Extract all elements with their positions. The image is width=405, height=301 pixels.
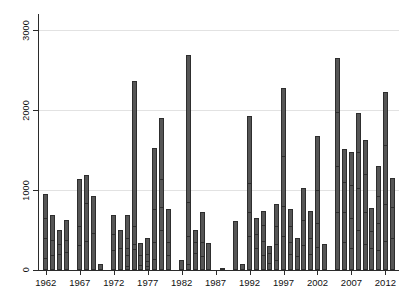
y-axis-tick-label-text: 2000 xyxy=(21,100,31,121)
x-axis-tick xyxy=(114,271,115,275)
bar xyxy=(342,149,347,270)
bar-segment-divider xyxy=(44,238,47,239)
y-axis-tick-label: 2000 xyxy=(0,88,31,132)
bar xyxy=(322,244,327,270)
bar-segment-divider xyxy=(302,245,305,246)
bar xyxy=(77,179,82,270)
bar-segment-divider xyxy=(153,242,156,243)
bar xyxy=(349,152,354,270)
y-axis-tick-label-text: 3000 xyxy=(21,20,31,41)
bar-segment-divider xyxy=(58,244,61,245)
y-axis-tick-label-text: 1000 xyxy=(21,180,31,201)
bar-segment-divider xyxy=(78,245,81,246)
bar xyxy=(43,194,48,270)
x-axis-tick xyxy=(385,271,386,275)
bar xyxy=(295,238,300,270)
y-axis-tick xyxy=(33,270,39,271)
bar xyxy=(383,92,388,270)
bar-segment-divider xyxy=(126,266,129,267)
bar xyxy=(288,209,293,270)
x-axis-tick-label: 1962 xyxy=(35,277,56,288)
bar-segment-divider xyxy=(146,261,149,262)
bar-segment-divider xyxy=(275,244,278,245)
bar-segment-divider xyxy=(133,244,136,245)
bar xyxy=(64,220,69,270)
bar xyxy=(206,243,211,270)
x-axis-tick-label: 1967 xyxy=(69,277,90,288)
bar xyxy=(220,268,225,270)
x-axis-tick xyxy=(351,271,352,275)
bar-segment-divider xyxy=(187,264,190,265)
bar-segment-divider xyxy=(126,238,129,239)
y-axis-tick-label-text: 0 xyxy=(21,267,31,272)
bar xyxy=(125,215,130,270)
bar-segment-divider xyxy=(146,266,149,267)
bar-segment-divider xyxy=(377,250,380,251)
bar-segment-divider xyxy=(350,185,353,186)
x-axis-tick-label: 1972 xyxy=(103,277,124,288)
bar-segment-divider xyxy=(384,204,387,205)
bar-segment-divider xyxy=(78,226,81,227)
bar xyxy=(132,81,137,270)
bar-segment-divider xyxy=(282,156,285,157)
bar-segment-divider xyxy=(268,253,271,254)
bar-segment-divider xyxy=(384,145,387,146)
bar xyxy=(118,230,123,270)
y-axis-tick-label: 1000 xyxy=(0,168,31,212)
x-axis-tick xyxy=(216,271,217,275)
bar-segment-divider xyxy=(384,241,387,242)
bar-segment-divider xyxy=(187,202,190,203)
bar xyxy=(363,140,368,270)
x-axis-tick xyxy=(317,271,318,275)
bar-segment-divider xyxy=(275,226,278,227)
bar-segment-divider xyxy=(350,218,353,219)
bar-segment-divider xyxy=(391,207,394,208)
bar-segment-divider xyxy=(146,254,149,255)
y-axis-tick-label: 3000 xyxy=(0,8,31,52)
bar-segment-divider xyxy=(350,248,353,249)
x-axis-tick-label: 1982 xyxy=(171,277,192,288)
x-axis-tick xyxy=(284,271,285,275)
bar xyxy=(159,118,164,270)
x-axis-tick-label: 1997 xyxy=(273,277,294,288)
bar-segment-divider xyxy=(289,242,292,243)
bar-segment-divider xyxy=(167,242,170,243)
x-axis-tick-label: 1977 xyxy=(137,277,158,288)
x-axis-tick-label: 2002 xyxy=(307,277,328,288)
bar-segment-divider xyxy=(126,255,129,256)
bar xyxy=(369,208,374,270)
bar xyxy=(240,264,245,270)
y-axis-tick xyxy=(33,30,39,31)
bar xyxy=(233,221,238,270)
bar xyxy=(308,211,313,270)
y-axis-tick xyxy=(33,190,39,191)
x-axis-tick xyxy=(46,271,47,275)
bar-segment-divider xyxy=(167,255,170,256)
bar xyxy=(193,230,198,270)
bar-segment-divider xyxy=(139,265,142,266)
bar-segment-divider xyxy=(160,207,163,208)
y-axis-tick-label: 0 xyxy=(0,248,31,292)
bar xyxy=(254,218,259,270)
bar xyxy=(301,188,306,270)
bar-segment-divider xyxy=(282,236,285,237)
x-axis-tick xyxy=(148,271,149,275)
bar-segment-divider xyxy=(370,248,373,249)
bar-segment-divider xyxy=(85,241,88,242)
bar-segment-divider xyxy=(370,231,373,232)
bar-segment-divider xyxy=(201,256,204,257)
x-axis-tick-label: 2007 xyxy=(341,277,362,288)
bar-segment-divider xyxy=(282,206,285,207)
bar-segment-divider xyxy=(377,223,380,224)
bar-segment-divider xyxy=(289,226,292,227)
x-axis-tick xyxy=(80,271,81,275)
bar-segment-divider xyxy=(139,255,142,256)
bar-segment-divider xyxy=(248,236,251,237)
x-axis-tick xyxy=(250,271,251,275)
x-axis-line xyxy=(38,270,399,271)
bar-segment-divider xyxy=(316,247,319,248)
bar-segment-divider xyxy=(377,196,380,197)
bar-segment-divider xyxy=(336,212,339,213)
bar-segment-divider xyxy=(65,252,68,253)
bar-segment-divider xyxy=(316,223,319,224)
